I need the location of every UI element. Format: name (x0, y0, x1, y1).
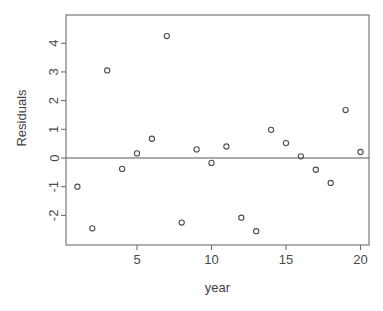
data-point (194, 147, 199, 152)
plot-frame (66, 15, 369, 245)
y-tick-label: -1 (47, 181, 62, 193)
data-point (269, 127, 274, 132)
y-tick-label: 4 (47, 40, 62, 47)
plot-canvas: -2-101234 5101520 Residuals year (0, 0, 383, 311)
x-axis-label: year (205, 280, 231, 295)
x-tick-label: 15 (279, 252, 293, 267)
data-point (343, 107, 348, 112)
data-point (90, 226, 95, 231)
y-tick-label: 3 (47, 68, 62, 75)
data-point (134, 151, 139, 156)
data-point (75, 184, 80, 189)
data-point (120, 166, 125, 171)
data-point (164, 33, 169, 38)
y-axis-label: Residuals (14, 89, 29, 147)
y-tick-label: 0 (47, 154, 62, 161)
x-tick-label: 20 (353, 252, 367, 267)
plot-frame-rect (66, 15, 369, 245)
scatter-points (75, 33, 363, 233)
data-point (209, 160, 214, 165)
x-axis-tick-labels: 5101520 (133, 252, 367, 267)
y-tick-label: 1 (47, 126, 62, 133)
y-tick-label: 2 (47, 97, 62, 104)
x-tick-label: 5 (133, 252, 140, 267)
y-tick-label: -2 (47, 210, 62, 222)
data-point (239, 215, 244, 220)
data-point (254, 229, 259, 234)
data-point (283, 140, 288, 145)
data-point (358, 149, 363, 154)
data-point (313, 167, 318, 172)
x-tick-label: 10 (204, 252, 218, 267)
data-point (179, 220, 184, 225)
data-point (328, 180, 333, 185)
y-axis-ticks (61, 43, 66, 215)
x-axis-ticks (137, 245, 361, 250)
y-axis-tick-labels: -2-101234 (47, 40, 62, 222)
residual-plot: -2-101234 5101520 Residuals year (0, 0, 383, 311)
data-point (105, 68, 110, 73)
data-point (149, 136, 154, 141)
data-point (224, 144, 229, 149)
